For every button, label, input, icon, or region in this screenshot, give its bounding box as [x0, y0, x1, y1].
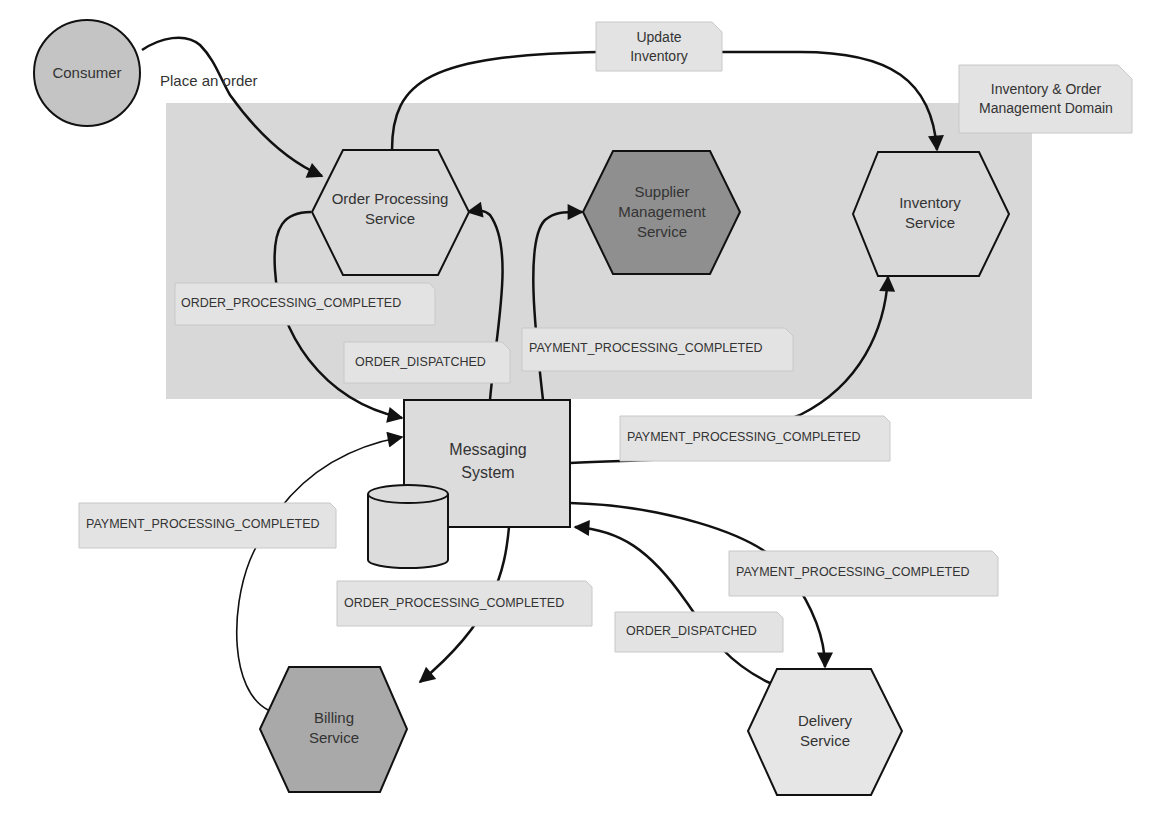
note-update-inventory: Update Inventory [596, 22, 722, 71]
billing-to-msg-label: PAYMENT_PROCESSING_COMPLETED [86, 517, 320, 531]
edge-delivery-to-msg [575, 527, 770, 683]
msg-to-delivery-label: PAYMENT_PROCESSING_COMPLETED [736, 565, 970, 579]
consumer-label: Consumer [52, 64, 121, 81]
note-msg-to-inventory: PAYMENT_PROCESSING_COMPLETED [620, 416, 890, 461]
supplier-label-3: Service [637, 223, 687, 240]
node-billing-service: Billing Service [260, 667, 407, 792]
ops-to-msg-label: ORDER_PROCESSING_COMPLETED [181, 296, 401, 310]
msg-to-ops-dispatched-label: ORDER_DISPATCHED [355, 355, 486, 369]
billing-label-2: Service [309, 729, 359, 746]
domain-label-2: Management Domain [979, 100, 1113, 116]
note-msg-to-supplier: PAYMENT_PROCESSING_COMPLETED [522, 328, 793, 371]
node-consumer: Consumer [34, 20, 140, 126]
delivery-label-1: Delivery [798, 712, 853, 729]
messaging-label-2: System [461, 464, 514, 481]
note-msg-to-billing: ORDER_PROCESSING_COMPLETED [337, 581, 592, 626]
node-delivery-service: Delivery Service [748, 669, 902, 795]
node-supplier-management-service: Supplier Management Service [583, 151, 740, 274]
billing-label-1: Billing [314, 709, 354, 726]
note-msg-to-delivery: PAYMENT_PROCESSING_COMPLETED [729, 551, 998, 596]
messaging-label-1: Messaging [449, 441, 526, 458]
note-ops-to-msg: ORDER_PROCESSING_COMPLETED [175, 283, 435, 325]
note-domain-title: Inventory & Order Management Domain [959, 65, 1132, 133]
update-inventory-label-2: Inventory [630, 48, 688, 64]
node-inventory-service: Inventory Service [853, 152, 1009, 276]
delivery-label-2: Service [800, 732, 850, 749]
msg-to-inventory-label: PAYMENT_PROCESSING_COMPLETED [627, 430, 861, 444]
msg-to-billing-label: ORDER_PROCESSING_COMPLETED [344, 596, 564, 610]
msg-to-supplier-label: PAYMENT_PROCESSING_COMPLETED [529, 341, 763, 355]
datastore-cylinder-icon [368, 485, 448, 568]
supplier-label-2: Management [618, 203, 706, 220]
delivery-to-msg-label: ORDER_DISPATCHED [626, 624, 757, 638]
supplier-label-1: Supplier [634, 183, 689, 200]
note-msg-to-ops-dispatched: ORDER_DISPATCHED [344, 342, 510, 383]
label-place-order: Place an order [160, 72, 258, 89]
domain-label-1: Inventory & Order [991, 81, 1102, 97]
node-order-processing-service: Order Processing Service [312, 150, 469, 275]
inventory-label-2: Service [905, 214, 955, 231]
inventory-label-1: Inventory [899, 194, 961, 211]
architecture-diagram: Consumer Order Processing Service Suppli… [0, 0, 1152, 822]
note-delivery-to-msg: ORDER_DISPATCHED [615, 612, 783, 652]
update-inventory-label-1: Update [636, 29, 681, 45]
order-processing-label-2: Service [365, 210, 415, 227]
note-billing-to-msg: PAYMENT_PROCESSING_COMPLETED [79, 503, 336, 548]
order-processing-label-1: Order Processing [332, 190, 449, 207]
